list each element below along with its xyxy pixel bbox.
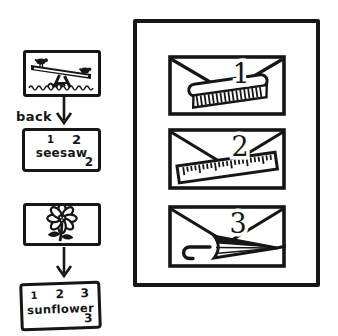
down-arrow-icon — [54, 97, 74, 127]
down-arrow-icon — [54, 246, 74, 280]
sunflower-icon — [26, 206, 98, 243]
flashcard-back-sunflower: 1 2 3 sunflower 3 — [19, 281, 102, 332]
envelope-2: 2 — [168, 128, 286, 190]
envelope-number: 3 — [229, 208, 246, 239]
envelope-number: 2 — [231, 131, 248, 162]
envelope-1: 1 — [168, 55, 286, 116]
back-label: back — [16, 109, 52, 124]
review-number: 2 — [72, 132, 81, 147]
envelope-3: 3 — [168, 205, 286, 268]
flashcard-front-seesaw — [23, 50, 101, 97]
envelope-number: 1 — [232, 58, 249, 89]
box-number: 2 — [85, 155, 93, 169]
review-number: 1 — [47, 134, 54, 145]
flashcard-back-seesaw: 1 2 seesaw 2 — [22, 128, 101, 172]
review-number: 1 — [30, 290, 37, 301]
review-number: 3 — [80, 286, 89, 300]
leitner-flashcard-diagram: back 1 2 seesaw 2 — [0, 0, 338, 336]
flashcard-front-sunflower — [23, 203, 101, 246]
review-number: 2 — [55, 287, 64, 301]
box-number: 3 — [84, 311, 93, 325]
seesaw-icon — [26, 53, 98, 94]
